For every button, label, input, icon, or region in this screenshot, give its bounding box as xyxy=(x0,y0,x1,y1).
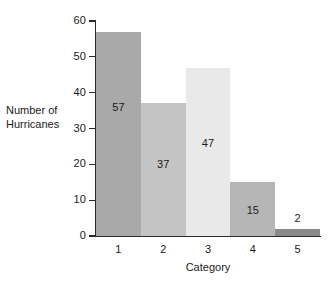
x-axis-tick-labels: 12345 xyxy=(96,243,320,257)
x-axis-tick-label-3: 3 xyxy=(186,243,231,255)
y-axis-tick-label: 30 xyxy=(58,123,86,134)
plot-area: 573747152 xyxy=(96,21,320,236)
bar-category-3 xyxy=(186,68,231,236)
x-axis-title: Category xyxy=(96,261,320,273)
x-axis-line xyxy=(95,236,321,237)
x-axis-tick-label-5: 5 xyxy=(275,243,320,255)
bar-value-label-3: 47 xyxy=(186,138,231,149)
x-axis-tick-label-2: 2 xyxy=(141,243,186,255)
bar-value-label-5: 2 xyxy=(275,213,320,224)
y-axis-tick-label-wrap: 30 xyxy=(58,123,86,135)
y-axis-tick-label-wrap: 10 xyxy=(58,194,86,206)
y-axis-tick-label: 60 xyxy=(58,15,86,26)
y-axis-tick-label-wrap: 40 xyxy=(58,87,86,99)
y-axis-tick-label-wrap: 20 xyxy=(58,158,86,170)
bar-value-label-1: 57 xyxy=(96,102,141,113)
y-axis-tick-label-wrap: 50 xyxy=(58,51,86,63)
bar-category-1 xyxy=(96,32,141,236)
y-axis-tick-label: 20 xyxy=(58,158,86,169)
y-axis-tick-label-wrap: 60 xyxy=(58,15,86,27)
y-axis-tick-label: 40 xyxy=(58,87,86,98)
y-axis-ticks: 0102030405060 xyxy=(0,0,96,281)
y-axis-tick-label: 0 xyxy=(58,230,86,241)
bar-chart: Number of Hurricanes 0102030405060 57374… xyxy=(0,0,331,281)
bar-value-label-4: 15 xyxy=(230,205,275,216)
bar-value-label-2: 37 xyxy=(141,159,186,170)
x-axis-tick-label-1: 1 xyxy=(96,243,141,255)
y-axis-tick-label-wrap: 0 xyxy=(58,230,86,242)
y-axis-tick-label: 10 xyxy=(58,194,86,205)
y-axis-tick-label: 50 xyxy=(58,51,86,62)
x-axis-tick-label-4: 4 xyxy=(230,243,275,255)
